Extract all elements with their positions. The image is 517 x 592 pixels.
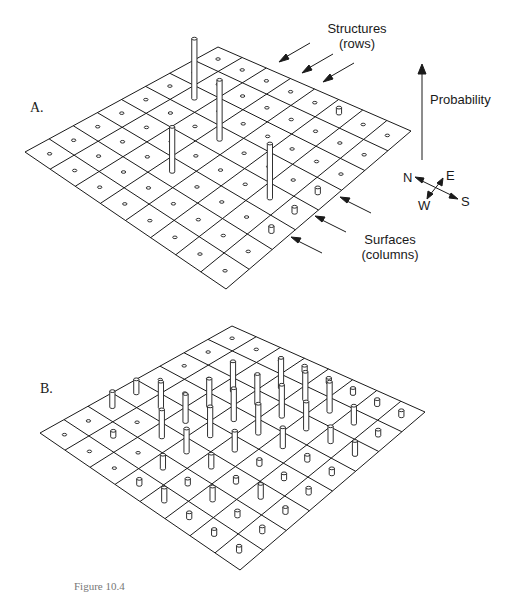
- probability-pillar: [208, 405, 213, 438]
- probability-pillar: [194, 155, 198, 158]
- probability-pillar: [338, 142, 342, 145]
- probability-pillar: [144, 126, 148, 129]
- probability-pillar: [304, 400, 309, 431]
- compass-w: W: [418, 198, 430, 213]
- probability-pillar: [216, 58, 220, 61]
- probability-pillar: [315, 186, 320, 195]
- probability-pillar: [212, 528, 217, 537]
- probability-pillar: [246, 250, 250, 253]
- probability-pillar: [196, 218, 200, 221]
- probability-pillar: [144, 98, 148, 101]
- probability-pillar: [218, 169, 222, 172]
- surfaces-arrow-1: [340, 197, 371, 213]
- probability-pillar: [47, 152, 51, 155]
- probability-pillar: [265, 135, 269, 138]
- probability-pillar: [362, 153, 366, 156]
- probability-pillar: [162, 486, 167, 503]
- probability-pillar: [136, 451, 140, 454]
- surfaces-subtitle: (columns): [350, 247, 430, 262]
- probability-pillar: [289, 118, 293, 121]
- probability-pillar: [195, 186, 199, 189]
- probability-pillar: [336, 106, 341, 115]
- probability-pillar: [98, 186, 102, 189]
- structures-subtitle: (rows): [322, 36, 392, 51]
- structures-arrow-3: [323, 63, 354, 82]
- annotation-arrows: [279, 43, 458, 253]
- probability-pillar: [72, 169, 76, 172]
- probability-pillar: [329, 467, 334, 476]
- probability-pillar: [232, 429, 237, 452]
- probability-pillar: [290, 148, 294, 151]
- probability-pillar: [267, 142, 272, 200]
- probability-pillar: [185, 477, 190, 486]
- probability-pillar: [198, 253, 202, 256]
- probability-pillar: [361, 123, 365, 126]
- probability-pillar: [121, 171, 125, 174]
- probability-pillar: [385, 134, 389, 137]
- probability-pillar: [303, 370, 308, 401]
- probability-pillar: [233, 475, 238, 484]
- probability-pillar: [264, 80, 268, 83]
- probability-pillar: [305, 453, 310, 462]
- probability-pillar: [279, 383, 284, 418]
- compass-n: N: [403, 170, 412, 185]
- probability-pillar: [313, 101, 317, 104]
- probability-pillar: [62, 433, 66, 436]
- figure-caption: Figure 10.4: [74, 580, 125, 592]
- structures-arrow-2: [302, 54, 333, 73]
- probability-pillar: [111, 429, 116, 438]
- structures-arrow-1: [279, 43, 310, 62]
- probability-pillar: [110, 390, 115, 409]
- probability-pillar: [399, 409, 404, 418]
- probability-pillar: [209, 452, 214, 469]
- compass-e: E: [446, 168, 455, 183]
- probability-pillar: [269, 225, 274, 234]
- probability-pillar: [240, 69, 244, 72]
- probability-pillar: [280, 426, 285, 449]
- probability-pillar: [241, 123, 245, 126]
- probability-pillar: [255, 373, 260, 406]
- probability-pillar: [281, 472, 286, 481]
- probability-pillar: [173, 236, 177, 239]
- probability-pillar: [376, 428, 381, 437]
- grid-line: [97, 113, 295, 230]
- probability-pillar: [182, 365, 186, 368]
- probability-pillar: [327, 380, 332, 413]
- probability-pillar: [146, 187, 150, 190]
- probability-pillar: [206, 351, 210, 354]
- probability-pillar: [168, 112, 172, 115]
- probability-pillar: [236, 544, 241, 553]
- probability-pillar: [123, 203, 127, 206]
- structures-title: Structures: [322, 21, 392, 36]
- probability-pillar: [314, 160, 318, 163]
- probability-pillar: [306, 486, 311, 495]
- probability-pillar: [223, 269, 227, 272]
- probability-pillar: [120, 140, 124, 143]
- probability-pillar: [145, 156, 149, 159]
- surfaces-arrow-3: [291, 237, 322, 253]
- probability-pillar: [243, 183, 247, 186]
- probability-pillar: [148, 219, 152, 222]
- surfaces-arrow-2: [315, 216, 346, 232]
- probability-pillar: [187, 511, 192, 520]
- probability-pillar: [96, 125, 100, 128]
- structures-label: Structures (rows): [322, 21, 392, 51]
- probability-pillar: [352, 440, 357, 457]
- probability-pillar: [171, 202, 175, 205]
- probability-pillar: [120, 112, 124, 115]
- probability-pillar: [87, 450, 91, 453]
- probability-pillar: [288, 90, 292, 93]
- probability-pillar: [328, 425, 333, 444]
- probability-pillar: [254, 348, 258, 351]
- probability-pillar: [193, 125, 197, 128]
- grid-line: [49, 139, 249, 269]
- probability-pillar: [192, 37, 197, 100]
- probability-pillar: [350, 387, 355, 396]
- panel-a-label: A.: [30, 100, 44, 116]
- compass-s: S: [461, 194, 470, 209]
- probability-pillar: [258, 483, 263, 500]
- probability-label: Probability: [430, 92, 491, 107]
- probability-pillar: [71, 139, 75, 142]
- probability-pillar: [235, 509, 240, 518]
